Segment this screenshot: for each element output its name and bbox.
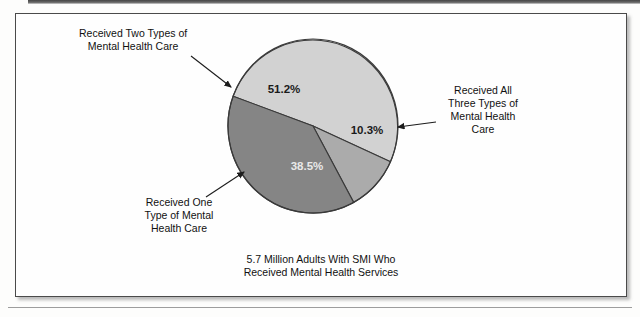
callout-label-all-three: Received All Three Types of Mental Healt…: [429, 84, 537, 136]
callout-two-types-line2: Mental Health Care: [79, 40, 187, 53]
scan-top-edge-band: [28, 0, 640, 4]
callout-all-three-line1: Received All: [429, 84, 537, 97]
figure-frame: 51.2% 10.3% 38.5% Received Two Types of …: [15, 13, 627, 297]
pie-chart: 51.2% 10.3% 38.5% Received Two Types of …: [16, 14, 626, 296]
slice-label-one-type: 38.5%: [291, 160, 324, 172]
leader-arrow-two-types: [191, 56, 231, 87]
slice-label-all-three: 10.3%: [351, 124, 384, 136]
callout-all-three-line4: Care: [429, 123, 537, 136]
page-bottom-rule: [8, 307, 632, 308]
callout-all-three-line3: Mental Health: [429, 110, 537, 123]
callout-label-two-types: Received Two Types of Mental Health Care: [79, 27, 187, 53]
callout-one-type-line3: Health Care: [130, 222, 228, 235]
callout-one-type-line1: Received One: [130, 196, 228, 209]
figure-caption-line1: 5.7 Million Adults With SMI Who: [16, 253, 626, 266]
page-canvas: 51.2% 10.3% 38.5% Received Two Types of …: [0, 0, 640, 317]
callout-one-type-line2: Type of Mental: [130, 209, 228, 222]
callout-two-types-line1: Received Two Types of: [79, 27, 187, 40]
leader-arrow-one-type: [206, 172, 244, 197]
figure-caption: 5.7 Million Adults With SMI Who Received…: [16, 253, 626, 279]
figure-caption-line2: Received Mental Health Services: [16, 266, 626, 279]
callout-label-one-type: Received One Type of Mental Health Care: [130, 196, 228, 235]
slice-label-two-types: 51.2%: [268, 83, 301, 95]
callout-all-three-line2: Three Types of: [429, 97, 537, 110]
